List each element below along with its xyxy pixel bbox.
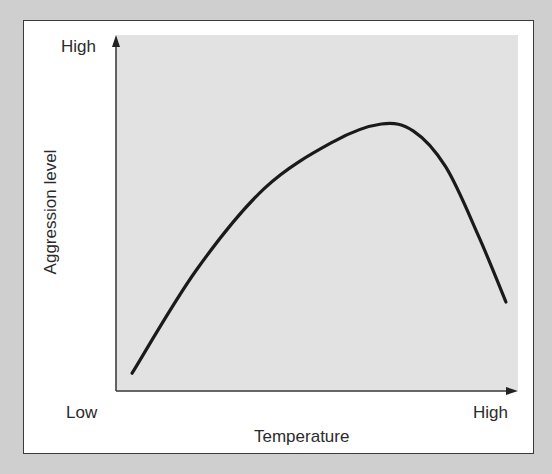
x-axis bbox=[116, 387, 518, 395]
x-axis-title: Temperature bbox=[254, 428, 349, 445]
x-axis-high-label: High bbox=[473, 404, 508, 421]
y-axis-title: Aggression level bbox=[42, 150, 59, 275]
x-axis-low-label: Low bbox=[66, 404, 97, 421]
x-axis-arrow-icon bbox=[506, 387, 518, 395]
y-axis-arrow-icon bbox=[112, 35, 120, 47]
y-axis-high-label: High bbox=[61, 38, 96, 55]
aggression-curve bbox=[132, 123, 506, 373]
y-axis bbox=[112, 35, 120, 391]
